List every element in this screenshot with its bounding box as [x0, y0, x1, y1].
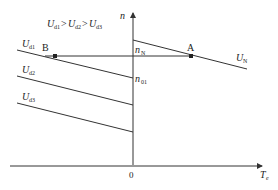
speed-label-n01: n — [135, 73, 140, 84]
curve-UN-label-sub: N — [243, 58, 248, 64]
curve-Ud3-label-sub: d3 — [29, 97, 35, 103]
curve-Ud3 — [17, 103, 133, 132]
voltage-condition-label: U d1 > U d2 > U d3 — [47, 18, 102, 30]
point-B-marker — [53, 54, 57, 58]
characteristic-diagram: n T e 0 U d1 > U d2 > U d3 U N U d1 U d2… — [0, 0, 278, 190]
svg-text:>: > — [61, 18, 67, 29]
point-A-marker — [189, 54, 193, 58]
curve-Ud1-label-sub: d1 — [29, 44, 35, 50]
point-B-label: B — [42, 42, 49, 53]
svg-text:>: > — [82, 18, 88, 29]
x-axis-label-sub: e — [266, 175, 269, 181]
svg-text:d2: d2 — [75, 24, 81, 30]
speed-label-n01-sub: 01 — [141, 79, 147, 85]
point-A-label: A — [187, 42, 195, 53]
svg-text:d1: d1 — [54, 24, 60, 30]
y-axis-label: n — [120, 10, 125, 21]
origin-label: 0 — [129, 170, 134, 180]
speed-label-nN-sub: N — [141, 50, 146, 56]
speed-label-nN: n — [135, 44, 140, 55]
curve-Ud2-label-sub: d2 — [29, 70, 35, 76]
svg-text:d3: d3 — [96, 24, 102, 30]
